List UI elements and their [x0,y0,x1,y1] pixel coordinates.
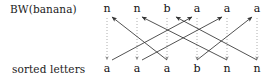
top-letter-3: a [190,3,204,15]
bottom-letter-2: a [160,63,174,75]
top-letter-0: n [100,3,114,15]
bottom-row-label: sorted letters [12,63,85,75]
mapping-arrows [112,17,257,60]
diagram-canvas: BW(banana) sorted letters nnbaaa aaabnn [0,0,270,80]
dotted-vertical-arrows [107,18,257,60]
bottom-letter-3: b [190,63,204,75]
mapping-arrow-2 [176,17,257,60]
mapping-arrow-5 [197,17,252,60]
top-row-label: BW(banana) [10,3,77,15]
bottom-letter-4: n [220,63,234,75]
mapping-arrow-4 [142,17,222,60]
bottom-letter-5: n [250,63,264,75]
top-letter-5: a [250,3,264,15]
mapping-arrow-3 [112,17,192,60]
top-letter-2: b [160,3,174,15]
bottom-letter-1: a [130,63,144,75]
mapping-arrow-0 [112,17,167,60]
top-letter-4: a [220,3,234,15]
bottom-letter-0: a [100,63,114,75]
mapping-arrow-1 [142,17,227,60]
top-letter-1: n [130,3,144,15]
